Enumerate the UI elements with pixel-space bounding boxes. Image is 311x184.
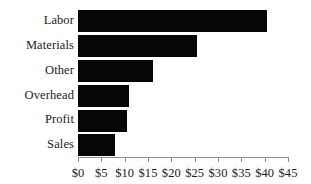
x-tick-label-9: $45 [278, 167, 297, 180]
bar-materials [78, 35, 197, 57]
bar-sales [78, 134, 115, 156]
x-tick-label-6: $30 [208, 167, 227, 180]
x-tick-label-4: $20 [162, 167, 181, 180]
x-tick-5 [195, 157, 196, 162]
category-label-overhead: Overhead [25, 89, 74, 102]
bar-other [78, 60, 153, 82]
category-axis-labels: Labor Materials Other Overhead Profit Sa… [0, 0, 74, 157]
x-tick-label-0: $0 [72, 167, 85, 180]
bar-labor [78, 10, 267, 32]
x-tick-4 [171, 157, 172, 162]
x-tick-label-3: $15 [138, 167, 157, 180]
x-tick-label-7: $35 [232, 167, 251, 180]
x-tick-1 [101, 157, 102, 162]
x-tick-2 [125, 157, 126, 162]
x-tick-label-2: $10 [115, 167, 134, 180]
x-tick-label-5: $25 [185, 167, 204, 180]
x-tick-3 [148, 157, 149, 162]
x-axis-line [78, 157, 289, 158]
category-label-materials: Materials [26, 39, 74, 52]
plot-area: Labor Materials Other Overhead Profit Sa… [0, 0, 311, 184]
category-label-sales: Sales [47, 138, 74, 151]
bar-overhead [78, 85, 129, 107]
x-tick-9 [288, 157, 289, 162]
x-tick-7 [241, 157, 242, 162]
x-tick-0 [78, 157, 79, 162]
bar-profit [78, 110, 127, 132]
x-tick-6 [218, 157, 219, 162]
x-tick-8 [265, 157, 266, 162]
category-label-profit: Profit [45, 113, 74, 126]
x-tick-label-8: $40 [255, 167, 274, 180]
x-tick-label-1: $5 [95, 167, 108, 180]
bar-chart: Labor Materials Other Overhead Profit Sa… [0, 0, 311, 184]
category-label-other: Other [45, 64, 74, 77]
category-label-labor: Labor [44, 14, 74, 27]
